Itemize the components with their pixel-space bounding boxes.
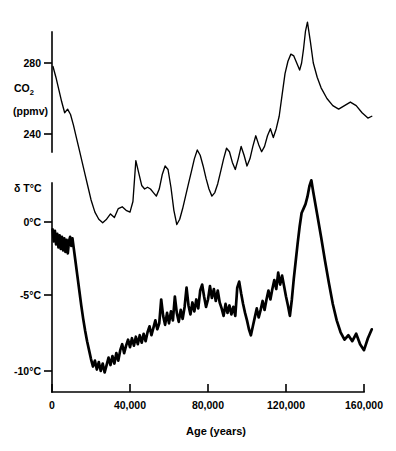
co2-axis-title-main: CO — [14, 82, 30, 94]
co2-axis-units: (ppmv) — [13, 105, 48, 117]
x-tick-label-120000: 120,000 — [267, 399, 305, 411]
x-tick-label-40000: 40,000 — [114, 399, 146, 411]
temperature-series-line — [53, 180, 372, 372]
climate-chart: 280 240 CO2 (ppmv) 0°C -5°C -10°C δ T°C … — [0, 0, 396, 451]
x-tick-label-160000: 160,000 — [345, 399, 383, 411]
x-tick-label-80000: 80,000 — [192, 399, 224, 411]
co2-tick-label-280: 280 — [23, 57, 41, 69]
temp-tick-label-minus10: -10°C — [14, 365, 41, 377]
temp-axis-title: δ T°C — [14, 182, 42, 194]
x-tick-label-0: 0 — [49, 399, 55, 411]
figure-panel: 280 240 CO2 (ppmv) 0°C -5°C -10°C δ T°C … — [0, 0, 396, 451]
co2-axis-title: CO2 — [14, 82, 34, 97]
temp-tick-label-0: 0°C — [23, 216, 41, 228]
x-axis-title: Age (years) — [186, 425, 246, 437]
co2-axis-title-subscript: 2 — [30, 88, 34, 97]
co2-tick-label-240: 240 — [23, 128, 41, 140]
co2-series-line — [53, 22, 372, 224]
temp-tick-label-minus5: -5°C — [20, 289, 42, 301]
